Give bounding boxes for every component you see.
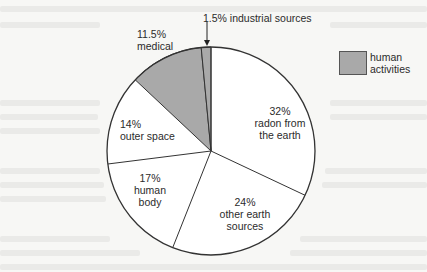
label-industrial-sources: 1.5% industrial sources [203,12,312,24]
legend-label-human-activities: human activities [370,51,410,75]
legend-swatch-human-activities [339,51,367,75]
label-outer-space-name: outer space [120,130,175,142]
label-other-earth-pct: 24% [205,196,285,208]
label-other-earth-line2: sources [205,220,285,232]
industrial-arrow [204,22,210,46]
label-radon-line1: radon from [240,117,320,129]
label-human-body-pct: 17% [120,172,180,184]
label-other-earth-line1: other earth [205,208,285,220]
label-radon-line2: the earth [240,129,320,141]
legend-line2: activities [370,63,410,75]
label-human-body-line2: body [120,196,180,208]
label-radon-pct: 32% [240,105,320,117]
legend-line1: human [370,51,410,63]
label-human-body-line1: human [120,184,180,196]
label-medical-name: medical [137,40,173,52]
label-outer-space-pct: 14% [120,118,141,130]
label-medical-pct: 11.5% [137,28,166,40]
